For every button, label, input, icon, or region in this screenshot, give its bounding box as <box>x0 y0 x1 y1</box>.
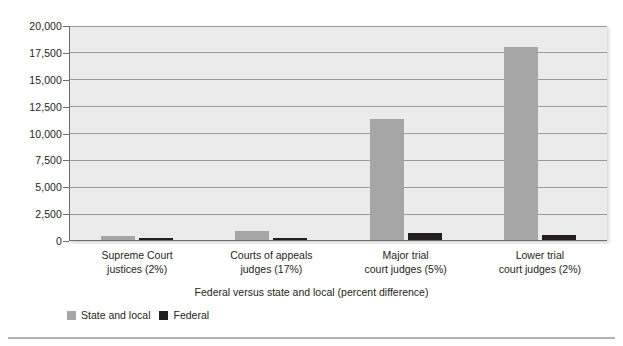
bar-state-and-local <box>504 47 538 241</box>
bar-group <box>70 26 204 240</box>
bar-group <box>473 26 607 240</box>
x-tick-label: Supreme Courtjustices (2%) <box>70 249 204 276</box>
x-tick-label: Major trialcourt judges (5%) <box>339 249 473 276</box>
y-tick-label: 2,500 <box>4 209 62 219</box>
x-tick-label: Courts of appealsjudges (17%) <box>204 249 338 276</box>
legend-swatch-icon-federal <box>159 311 168 320</box>
y-tick-mark <box>63 241 69 242</box>
bar-federal <box>273 238 307 240</box>
x-axis-title: Federal versus state and local (percent … <box>0 286 623 298</box>
bar-federal <box>139 238 173 240</box>
y-tick-label: 15,000 <box>4 75 62 85</box>
legend-item-state-and-local: State and local <box>67 309 150 321</box>
legend-label-federal: Federal <box>173 309 209 321</box>
chart-legend: State and local Federal <box>67 309 209 321</box>
y-tick-label: 17,500 <box>4 48 62 58</box>
bar-chart-figure: 02,5005,0007,50010,00012,50015,00017,500… <box>0 0 623 346</box>
bar-state-and-local <box>235 231 269 240</box>
bar-group <box>339 26 473 240</box>
y-tick-label: 10,000 <box>4 129 62 139</box>
legend-item-federal: Federal <box>159 309 209 321</box>
y-tick-label: 0 <box>4 236 62 246</box>
bar-group <box>204 26 338 240</box>
bar-state-and-local <box>370 119 404 240</box>
y-tick-label: 7,500 <box>4 155 62 165</box>
bar-federal <box>408 233 442 240</box>
y-axis: 02,5005,0007,50010,00012,50015,00017,500… <box>0 26 62 241</box>
bars-layer <box>70 26 607 240</box>
legend-label-state-and-local: State and local <box>81 309 150 321</box>
y-tick-label: 12,500 <box>4 102 62 112</box>
footer-divider <box>8 337 615 339</box>
y-tick-label: 20,000 <box>4 21 62 31</box>
bar-federal <box>542 235 576 240</box>
bar-state-and-local <box>101 236 135 240</box>
y-tick-label: 5,000 <box>4 182 62 192</box>
x-axis-category-labels: Supreme Courtjustices (2%)Courts of appe… <box>70 249 607 283</box>
x-tick-label: Lower trialcourt judges (2%) <box>473 249 607 276</box>
legend-swatch-icon-state-and-local <box>67 311 76 320</box>
